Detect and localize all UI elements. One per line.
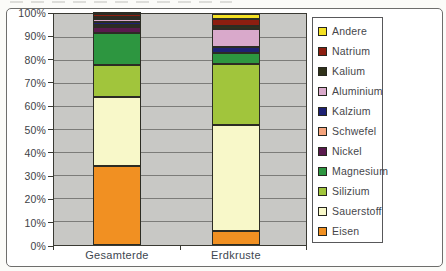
- legend-item-kalzium: Kalzium: [313, 101, 382, 121]
- bar-erdkruste-segment-aluminium: [212, 29, 260, 47]
- y-tick-label: 70%: [24, 77, 46, 89]
- y-tick-label: 90%: [24, 30, 46, 42]
- legend-label-andere: Andere: [332, 25, 367, 37]
- bar-erdkruste-segment-natrium: [212, 19, 260, 27]
- bar-gesamterde-segment-sauerstoff: [93, 97, 141, 166]
- legend-item-magnesium: Magnesium: [313, 161, 382, 181]
- bar-gesamterde-segment-magnesium: [93, 33, 141, 65]
- y-tick-label: 60%: [24, 100, 46, 112]
- legend-label-nickel: Nickel: [332, 145, 362, 157]
- gridline: [54, 37, 306, 38]
- legend-item-nickel: Nickel: [313, 141, 382, 161]
- legend-item-natrium: Natrium: [313, 41, 382, 61]
- legend-item-aluminium: Aluminium: [313, 81, 382, 101]
- legend-label-sauerstoff: Sauerstoff: [332, 205, 382, 217]
- legend-swatch-nickel: [318, 147, 327, 156]
- bar-gesamterde: [93, 14, 141, 245]
- legend: AndereNatriumKaliumAluminiumKalziumSchwe…: [312, 17, 383, 243]
- category-label-gesamterde: Gesamterde: [62, 249, 172, 261]
- legend-label-magnesium: Magnesium: [332, 165, 388, 177]
- legend-swatch-natrium: [318, 47, 327, 56]
- legend-label-silizium: Silizium: [332, 185, 370, 197]
- gridline: [54, 60, 306, 61]
- legend-swatch-kalzium: [318, 107, 327, 116]
- gridline: [54, 152, 306, 153]
- category-label-erdkruste: Erdkruste: [181, 249, 291, 261]
- gridline: [54, 175, 306, 176]
- legend-label-kalium: Kalium: [332, 65, 365, 77]
- x-tick-mark: [306, 246, 307, 250]
- y-tick-label: 20%: [24, 193, 46, 205]
- crop-artifact: [10, 1, 232, 3]
- y-tick-label: 80%: [24, 54, 46, 66]
- legend-swatch-schwefel: [318, 127, 327, 136]
- bar-erdkruste-segment-magnesium: [212, 53, 260, 65]
- legend-swatch-silizium: [318, 187, 327, 196]
- legend-swatch-aluminium: [318, 87, 327, 96]
- gridline: [54, 221, 306, 222]
- legend-swatch-magnesium: [318, 167, 327, 176]
- bar-erdkruste: [212, 14, 260, 245]
- legend-label-eisen: Eisen: [332, 225, 359, 237]
- plot-area: [53, 13, 307, 246]
- gridline: [54, 129, 306, 130]
- legend-swatch-kalium: [318, 67, 327, 76]
- legend-item-sauerstoff: Sauerstoff: [313, 201, 382, 221]
- gridline: [54, 106, 306, 107]
- gridline: [54, 83, 306, 84]
- legend-swatch-sauerstoff: [318, 207, 327, 216]
- x-tick-mark: [53, 246, 54, 250]
- y-tick-label: 40%: [24, 147, 46, 159]
- legend-label-kalzium: Kalzium: [332, 105, 371, 117]
- y-tick-label: 30%: [24, 170, 46, 182]
- y-tick-label: 10%: [24, 217, 46, 229]
- legend-item-eisen: Eisen: [313, 221, 382, 241]
- bar-erdkruste-segment-eisen: [212, 231, 260, 245]
- chart-canvas: 100%90%80%70%60%50%40%30%20%10%0% Gesamt…: [0, 0, 446, 271]
- bar-erdkruste-segment-sauerstoff: [212, 125, 260, 231]
- bar-gesamterde-segment-silizium: [93, 65, 141, 97]
- legend-label-natrium: Natrium: [332, 45, 370, 57]
- legend-swatch-andere: [318, 27, 327, 36]
- bar-gesamterde-segment-eisen: [93, 166, 141, 245]
- legend-item-andere: Andere: [313, 21, 382, 41]
- legend-item-kalium: Kalium: [313, 61, 382, 81]
- legend-label-aluminium: Aluminium: [332, 85, 383, 97]
- legend-label-schwefel: Schwefel: [332, 125, 376, 137]
- y-axis-labels: 100%90%80%70%60%50%40%30%20%10%0%: [0, 13, 46, 246]
- legend-item-schwefel: Schwefel: [313, 121, 382, 141]
- legend-item-silizium: Silizium: [313, 181, 382, 201]
- y-tick-label: 50%: [24, 124, 46, 136]
- legend-swatch-eisen: [318, 227, 327, 236]
- y-tick-label: 100%: [18, 7, 46, 19]
- bar-erdkruste-segment-silizium: [212, 64, 260, 125]
- gridline: [54, 198, 306, 199]
